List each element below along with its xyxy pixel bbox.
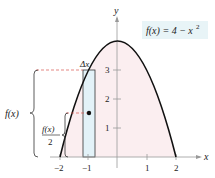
x-tick-label: −2	[54, 163, 64, 173]
function-exponent: 2	[196, 23, 200, 31]
fx-half-numerator: f(x)	[42, 124, 55, 134]
x-tick-label: −1	[82, 163, 92, 173]
midpoint-dot	[87, 111, 91, 115]
function-label: f(x) = 4 − x	[146, 25, 193, 37]
y-tick-label: 3	[105, 65, 110, 75]
y-tick-label: 1	[105, 123, 110, 133]
fx-label: f(x)	[5, 108, 20, 120]
fx-half-denominator: 2	[48, 137, 53, 147]
y-tick-label: 2	[105, 94, 110, 104]
y-axis-arrow-icon	[115, 16, 119, 22]
diagram-canvas: f(x) = 4 − x 2 x y −2 −1 1 2 1 2 3 Δx f(…	[0, 0, 215, 178]
x-tick-label: 2	[174, 163, 179, 173]
x-axis-arrow-icon	[196, 155, 202, 159]
x-tick-label: 1	[145, 163, 150, 173]
delta-x-label: Δx	[79, 59, 89, 69]
fx-brace	[30, 70, 38, 157]
x-axis-label: x	[203, 151, 209, 162]
y-axis-label: y	[113, 5, 119, 16]
